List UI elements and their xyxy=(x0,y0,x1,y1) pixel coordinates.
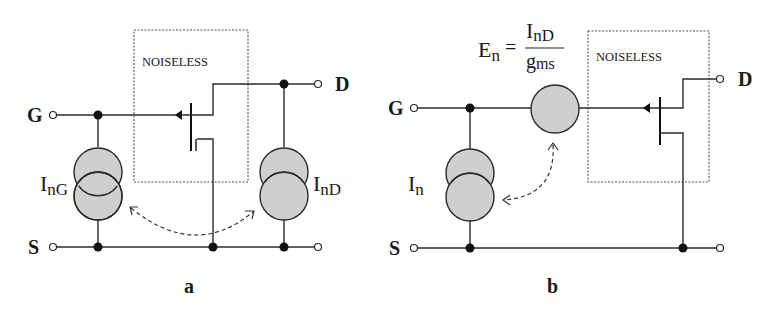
terminal-source-a xyxy=(50,244,57,251)
gate-arrow-icon-a xyxy=(175,110,182,120)
node-gate-b xyxy=(466,104,475,113)
label-ind: InD xyxy=(313,171,341,199)
noise-current-source-ind xyxy=(260,148,308,220)
terminal-source-b xyxy=(411,245,418,252)
correlation-arrow-a xyxy=(131,208,253,235)
gate-arrow-icon-b xyxy=(643,103,650,113)
node-s3-a xyxy=(280,243,289,252)
correlation-arrow-b xyxy=(504,145,553,200)
svg-text:=: = xyxy=(505,36,516,58)
panel-b: NOISELESS In En = InD gms xyxy=(388,18,752,297)
terminal-source-out-b xyxy=(717,245,724,252)
label-d-b: D xyxy=(738,68,752,90)
drain-wire-a xyxy=(191,84,315,115)
node-s1-b xyxy=(466,244,475,253)
noiseless-label-b: NOISELESS xyxy=(596,50,662,64)
noise-current-source-ing xyxy=(74,148,122,220)
noiseless-label-a: NOISELESS xyxy=(142,55,208,69)
caption-b: b xyxy=(547,275,558,297)
label-s-a: S xyxy=(28,236,39,258)
svg-text:InD: InD xyxy=(526,18,554,45)
label-ing: InG xyxy=(40,171,68,199)
noise-model-diagram: NOISELESS InG xyxy=(0,0,783,313)
node-s1-a xyxy=(94,243,103,252)
terminal-drain-a xyxy=(315,81,322,88)
svg-text:gms: gms xyxy=(526,50,555,73)
label-g-b: G xyxy=(388,97,404,119)
terminal-drain-b xyxy=(717,76,724,83)
label-g-a: G xyxy=(27,104,43,126)
source-wire-a xyxy=(197,139,213,247)
source-wire-b xyxy=(661,133,683,248)
node-gate-a xyxy=(94,111,103,120)
terminal-source-out-a xyxy=(315,244,322,251)
node-s2-a xyxy=(209,243,218,252)
noise-current-source-in xyxy=(446,149,494,221)
formula-en: En = InD gms xyxy=(478,18,564,73)
panel-a: NOISELESS InG xyxy=(27,30,349,297)
terminal-gate-b xyxy=(411,105,418,112)
noise-voltage-source-en xyxy=(531,85,579,133)
svg-text:En: En xyxy=(478,37,500,65)
label-in: In xyxy=(408,171,424,199)
label-s-b: S xyxy=(389,237,400,259)
node-s2-b xyxy=(679,244,688,253)
label-d-a: D xyxy=(335,73,349,95)
caption-a: a xyxy=(184,275,194,297)
node-drain-a xyxy=(280,80,289,89)
terminal-gate-a xyxy=(50,112,57,119)
